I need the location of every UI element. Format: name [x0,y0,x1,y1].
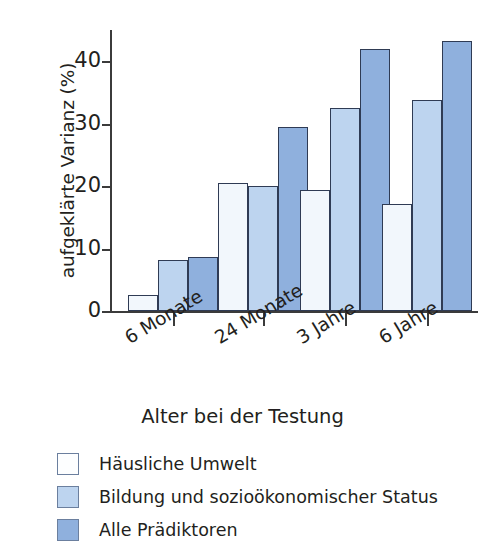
bar-chart: aufgeklärte Varianz (%) 010203040 6 Mona… [0,0,485,545]
legend-item: Bildung und sozioökonomischer Status [57,480,485,513]
y-axis-tick-mark [102,311,111,313]
bar [218,183,248,311]
y-axis-tick-mark [102,61,111,63]
legend-label: Bildung und sozioökonomischer Status [99,487,438,507]
y-axis-line [110,30,112,313]
y-axis-tick-label: 30 [74,113,101,134]
bar [382,204,412,311]
bar [442,41,472,311]
legend-label: Alle Prädiktoren [99,520,238,540]
legend-item: Alle Prädiktoren [57,513,485,545]
x-axis-title: Alter bei der Testung [0,405,485,428]
y-axis-tick-label: 0 [88,300,101,321]
y-axis-tick-label: 20 [74,175,101,196]
y-axis-tick-mark [102,249,111,251]
legend-swatch [57,519,79,541]
bar [412,100,442,311]
y-axis-tick-label: 40 [74,50,101,71]
legend-item: Häusliche Umwelt [57,447,485,480]
legend-swatch [57,486,79,508]
bar [300,190,330,311]
y-axis-tick-mark [102,124,111,126]
legend: Häusliche UmweltBildung und sozioökonomi… [57,447,485,545]
plot-area: 010203040 6 Monate24 Monate3 Jahre6 Jahr… [110,30,478,312]
legend-label: Häusliche Umwelt [99,454,257,474]
y-axis-tick-label: 10 [74,238,101,259]
bar [330,108,360,311]
y-axis-tick-mark [102,186,111,188]
bar [128,295,158,311]
legend-swatch [57,453,79,475]
